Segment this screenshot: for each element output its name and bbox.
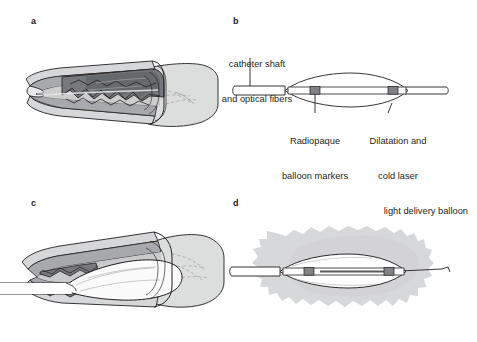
panel-a-artwork xyxy=(26,61,218,126)
label-dilatation-line2: cold laser xyxy=(340,171,468,183)
label-dilatation-line1: Dilatation and xyxy=(340,136,468,148)
label-catheter-shaft-line1: catheter shaft xyxy=(205,59,309,71)
c-catheter-shaft-body xyxy=(0,283,72,294)
label-dilatation-balloon: Dilatation and cold laser light delivery… xyxy=(340,113,468,241)
radiopaque-marker-distal xyxy=(388,87,398,95)
leader-line-balloon xyxy=(388,103,392,113)
d-catheter-shaft-proximal xyxy=(230,267,280,276)
d-radiopaque-marker-proximal xyxy=(304,268,314,276)
label-dilatation-line3: light delivery balloon xyxy=(340,206,468,218)
label-catheter-shaft-line2: and optical fibers xyxy=(205,94,309,106)
figure-root: a b c d xyxy=(0,0,477,342)
panel-c-artwork xyxy=(0,232,224,307)
catheter-shaft-distal xyxy=(405,87,448,94)
d-radiopaque-marker-distal xyxy=(384,268,394,276)
radiopaque-marker-proximal xyxy=(310,87,320,95)
